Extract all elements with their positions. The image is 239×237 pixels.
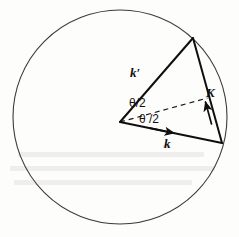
scattering-diagram-figure: k′ k K θ/2 θ /2 — [0, 0, 239, 237]
theta-half-lower-label: θ /2 — [139, 113, 159, 125]
k-vector-arrowhead — [150, 128, 174, 133]
theta-half-upper-label: θ/2 — [129, 97, 146, 109]
K-label: K — [206, 86, 215, 99]
k-prime-label: k′ — [130, 66, 140, 79]
k-label: k — [164, 137, 171, 150]
diagram-canvas — [0, 0, 239, 237]
